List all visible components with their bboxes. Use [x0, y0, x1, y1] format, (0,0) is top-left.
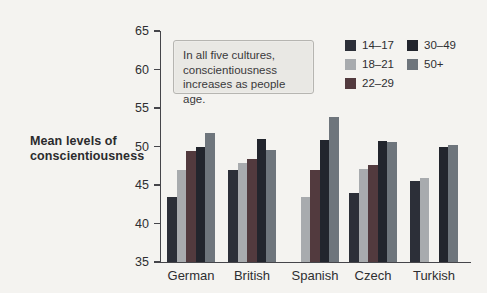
x-tick-label-czech: Czech [338, 268, 408, 283]
bar-german-18–21 [177, 170, 187, 262]
y-tick-label: 50 [119, 140, 149, 154]
figure-page: Mean levels of conscientiousness 6560555… [0, 0, 487, 293]
y-tick-mark [154, 184, 160, 186]
bar-czech-30–49 [378, 141, 388, 262]
bar-german-14–17 [167, 197, 177, 262]
bar-spanish-50+ [329, 117, 339, 262]
legend-item: 50+ [407, 58, 456, 70]
bar-german-22–29 [186, 151, 196, 262]
bar-czech-22–29 [368, 165, 378, 262]
bar-british-18–21 [238, 163, 248, 262]
legend-item: 18–21 [345, 58, 394, 70]
legend-column-1: 14–17 18–21 22–29 [345, 39, 394, 89]
x-tick-label-british: British [217, 268, 287, 283]
legend-item: 30–49 [407, 39, 456, 51]
legend-item: 22–29 [345, 77, 394, 89]
annotation-box: In all five cultures, conscientiousness … [173, 40, 314, 94]
y-tick-label: 35 [119, 255, 149, 269]
bar-spanish-30–49 [320, 140, 330, 262]
bar-czech-14–17 [349, 193, 359, 262]
legend-column-2: 30–49 50+ [407, 39, 456, 89]
bar-german-50+ [205, 133, 215, 262]
y-tick-mark [154, 146, 160, 148]
legend-swatch [407, 59, 418, 70]
x-tick-label-turkish: Turkish [399, 268, 469, 283]
bar-turkish-30–49 [439, 147, 449, 263]
y-tick-mark [154, 69, 160, 71]
legend-swatch [407, 40, 418, 51]
legend-label: 30–49 [424, 39, 456, 51]
bar-british-50+ [266, 150, 276, 262]
y-tick-mark [154, 261, 160, 263]
y-tick-label: 55 [119, 101, 149, 115]
legend-swatch [345, 59, 356, 70]
legend-label: 22–29 [362, 77, 394, 89]
legend-swatch [345, 40, 356, 51]
bar-turkish-50+ [448, 145, 458, 262]
legend-swatch [345, 78, 356, 89]
bar-turkish-14–17 [410, 181, 420, 262]
bar-british-22–29 [247, 159, 257, 262]
legend-item: 14–17 [345, 39, 394, 51]
bar-turkish-18–21 [420, 178, 430, 262]
bar-czech-18–21 [359, 169, 369, 262]
y-tick-mark [154, 223, 160, 225]
y-tick-label: 65 [119, 24, 149, 38]
x-tick-label-german: German [156, 268, 226, 283]
y-tick-label: 45 [119, 178, 149, 192]
bar-czech-50+ [387, 142, 397, 262]
bar-british-14–17 [228, 170, 238, 262]
legend-label: 14–17 [362, 39, 394, 51]
legend-label: 18–21 [362, 58, 394, 70]
y-tick-mark [154, 30, 160, 32]
legend: 14–17 18–21 22–29 30–49 50+ [345, 39, 456, 89]
y-tick-label: 60 [119, 63, 149, 77]
bar-british-30–49 [257, 139, 267, 262]
y-tick-mark [154, 107, 160, 109]
y-tick-label: 40 [119, 217, 149, 231]
bar-german-30–49 [196, 147, 206, 263]
bar-spanish-22–29 [310, 170, 320, 262]
legend-label: 50+ [424, 58, 444, 70]
bar-spanish-18–21 [301, 197, 311, 262]
